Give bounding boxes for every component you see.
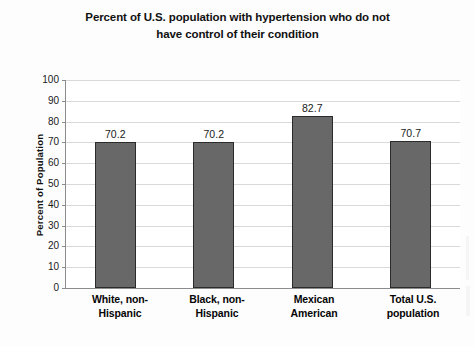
- bar-2[interactable]: 82.7: [292, 116, 333, 288]
- gridline-100: [66, 80, 460, 81]
- category-label-2: Mexican American: [274, 293, 354, 320]
- gridline-90: [66, 101, 460, 102]
- y-tick-label-0: 0: [53, 283, 59, 293]
- category-label-0-line-1: White, non-: [80, 293, 160, 307]
- y-tick-label-40: 40: [48, 200, 59, 210]
- chart-title-line-2: have control of their condition: [0, 26, 475, 43]
- category-label-3-line-2: population: [372, 307, 454, 321]
- y-tick-label-90: 90: [48, 96, 59, 106]
- bar-0[interactable]: 70.2: [95, 142, 136, 288]
- gridline-80: [66, 122, 460, 123]
- category-label-2-line-1: Mexican: [274, 293, 354, 307]
- category-label-0: White, non- Hispanic: [80, 293, 160, 320]
- bar-value-label-3: 70.7: [401, 128, 421, 139]
- y-tick-label-20: 20: [48, 241, 59, 251]
- y-tick-mark-10: [62, 267, 66, 268]
- chart-title: Percent of U.S. population with hyperten…: [0, 9, 475, 43]
- y-tick-label-100: 100: [42, 75, 59, 85]
- category-label-3-line-1: Total U.S.: [372, 293, 454, 307]
- y-tick-mark-80: [62, 122, 66, 123]
- y-tick-mark-40: [62, 205, 66, 206]
- y-tick-mark-100: [62, 80, 66, 81]
- chart-title-line-1: Percent of U.S. population with hyperten…: [0, 9, 475, 26]
- y-tick-label-80: 80: [48, 117, 59, 127]
- category-label-3: Total U.S. population: [372, 293, 454, 320]
- gridline-0: [66, 288, 460, 289]
- y-tick-label-10: 10: [48, 262, 59, 272]
- bar-1[interactable]: 70.2: [193, 142, 234, 288]
- y-tick-mark-70: [62, 142, 66, 143]
- y-tick-mark-60: [62, 163, 66, 164]
- category-label-0-line-2: Hispanic: [80, 307, 160, 321]
- scan-artifact: [466, 236, 469, 280]
- y-tick-label-30: 30: [48, 221, 59, 231]
- category-label-2-line-2: American: [274, 307, 354, 321]
- bar-value-label-0: 70.2: [105, 129, 125, 140]
- category-label-1-line-1: Black, non-: [177, 293, 257, 307]
- y-axis-title: Percent of Population: [34, 85, 48, 285]
- y-tick-mark-20: [62, 246, 66, 247]
- bar-value-label-1: 70.2: [204, 129, 224, 140]
- y-tick-mark-50: [62, 184, 66, 185]
- category-label-1-line-2: Hispanic: [177, 307, 257, 321]
- bar-3[interactable]: 70.7: [390, 141, 431, 288]
- plot-area: 100908070605040302010070.270.282.770.7: [65, 80, 460, 289]
- category-label-1: Black, non- Hispanic: [177, 293, 257, 320]
- scan-artifact: [466, 286, 470, 316]
- bar-value-label-2: 82.7: [302, 103, 322, 114]
- y-tick-label-60: 60: [48, 158, 59, 168]
- y-tick-label-70: 70: [48, 137, 59, 147]
- y-tick-mark-0: [62, 288, 66, 289]
- y-tick-mark-30: [62, 226, 66, 227]
- y-tick-mark-90: [62, 101, 66, 102]
- y-tick-label-50: 50: [48, 179, 59, 189]
